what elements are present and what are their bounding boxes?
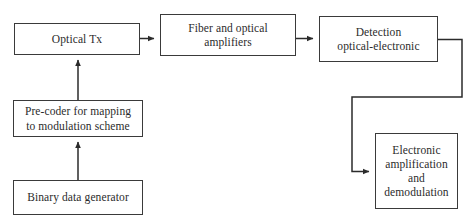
node-fiber-and-optical-amplifiers-label: Fiber and optical amplifiers bbox=[184, 21, 272, 49]
node-binary-data-generator[interactable]: Binary data generator bbox=[13, 180, 143, 215]
node-electronic-amplification-and-demodulation-label: Electronic amplification and demodulatio… bbox=[380, 143, 452, 199]
node-detection-optical-electronic-label: Detection optical-electronic bbox=[333, 25, 423, 53]
node-pre-coder-for-mapping[interactable]: Pre-coder for mapping to modulation sche… bbox=[13, 100, 143, 137]
node-binary-data-generator-label: Binary data generator bbox=[23, 190, 133, 204]
block-diagram: Optical Tx Fiber and optical amplifiers … bbox=[0, 0, 474, 224]
node-optical-tx-label: Optical Tx bbox=[48, 32, 106, 46]
node-pre-coder-for-mapping-label: Pre-coder for mapping to modulation sche… bbox=[21, 104, 135, 132]
node-optical-tx[interactable]: Optical Tx bbox=[14, 23, 140, 55]
node-electronic-amplification-and-demodulation[interactable]: Electronic amplification and demodulatio… bbox=[375, 133, 458, 209]
node-fiber-and-optical-amplifiers[interactable]: Fiber and optical amplifiers bbox=[160, 14, 296, 56]
node-detection-optical-electronic[interactable]: Detection optical-electronic bbox=[319, 16, 438, 62]
